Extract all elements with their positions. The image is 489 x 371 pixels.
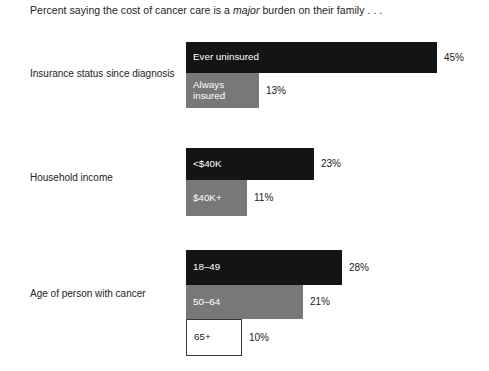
bar-value-label: 13% (266, 85, 286, 96)
bar-chart: Percent saying the cost of cancer care i… (0, 0, 489, 371)
chart-title-emphasis: major (233, 4, 260, 16)
category-label: Age of person with cancer (30, 288, 146, 299)
bar-value-label: 10% (249, 332, 269, 343)
bar-label: Always insured (186, 80, 225, 102)
chart-title: Percent saying the cost of cancer care i… (30, 4, 382, 16)
chart-title-suffix: burden on their family . . . (259, 4, 382, 16)
bar[interactable]: <$40K (186, 148, 314, 180)
bar[interactable]: 65+ (186, 319, 242, 356)
bar-value-label: 45% (444, 52, 464, 63)
category-label: Insurance status since diagnosis (30, 68, 175, 79)
bar[interactable]: Ever uninsured (186, 42, 437, 73)
bar-value-label: 11% (254, 192, 273, 203)
bar[interactable]: 50–64 (186, 285, 303, 319)
bar-label: <$40K (186, 159, 222, 170)
bar-label: Ever uninsured (186, 52, 259, 63)
bar-label: $40K+ (186, 193, 222, 204)
category-label: Household income (30, 172, 113, 183)
bar[interactable]: $40K+ (186, 180, 247, 216)
bar[interactable]: Always insured (186, 73, 259, 108)
bar-value-label: 23% (321, 158, 341, 169)
bar-label: 50–64 (186, 297, 220, 308)
chart-title-prefix: Percent saying the cost of cancer care i… (30, 4, 233, 16)
bar-value-label: 28% (349, 262, 369, 273)
bar[interactable]: 18–49 (186, 250, 342, 285)
bar-value-label: 21% (310, 296, 330, 307)
bar-label: 18–49 (186, 262, 220, 273)
bar-label: 65+ (187, 332, 211, 343)
